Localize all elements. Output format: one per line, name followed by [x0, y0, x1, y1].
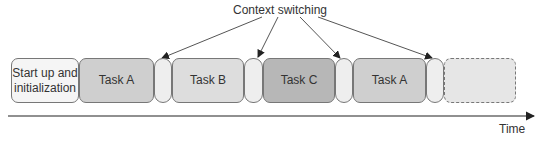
context-switch-block	[335, 58, 353, 103]
context-switch-block	[426, 58, 444, 103]
init-block: Start up and initialization	[11, 58, 79, 103]
task-block: Task A	[79, 58, 154, 103]
future-block	[444, 58, 516, 103]
task-block: Task A	[353, 58, 426, 103]
task-block: Task B	[172, 58, 244, 103]
context-switch-block	[244, 58, 263, 103]
task-block: Task C	[263, 58, 335, 103]
context-switch-block	[154, 58, 172, 103]
context-switch-arrows	[162, 17, 432, 58]
time-axis-label: Time	[499, 122, 525, 136]
context-switching-label: Context switching	[233, 3, 327, 17]
